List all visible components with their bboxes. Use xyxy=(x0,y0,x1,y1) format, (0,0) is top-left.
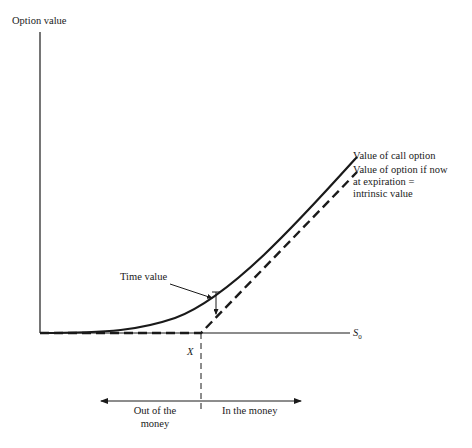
call-value-curve xyxy=(40,157,357,333)
intrinsic-label-3: intrinsic value xyxy=(353,188,413,200)
intrinsic-label-1: Value of option if now xyxy=(353,164,448,176)
y-axis-label: Option value xyxy=(12,15,67,27)
out-of-money-label-2: money xyxy=(120,418,190,430)
out-of-money-label-1: Out of the xyxy=(120,405,190,417)
x-axis-label: S0 xyxy=(353,327,362,343)
x-axis-subscript: 0 xyxy=(358,333,362,341)
time-value-label: Time value xyxy=(120,271,167,283)
time-value-pointer xyxy=(170,284,212,298)
option-value-diagram xyxy=(0,0,472,448)
intrinsic-label-2: at expiration = xyxy=(353,176,414,188)
in-the-money-label: In the money xyxy=(222,405,277,417)
intrinsic-value-line xyxy=(40,172,357,333)
strike-label: X xyxy=(187,346,193,358)
call-curve-label: Value of call option xyxy=(353,150,436,162)
